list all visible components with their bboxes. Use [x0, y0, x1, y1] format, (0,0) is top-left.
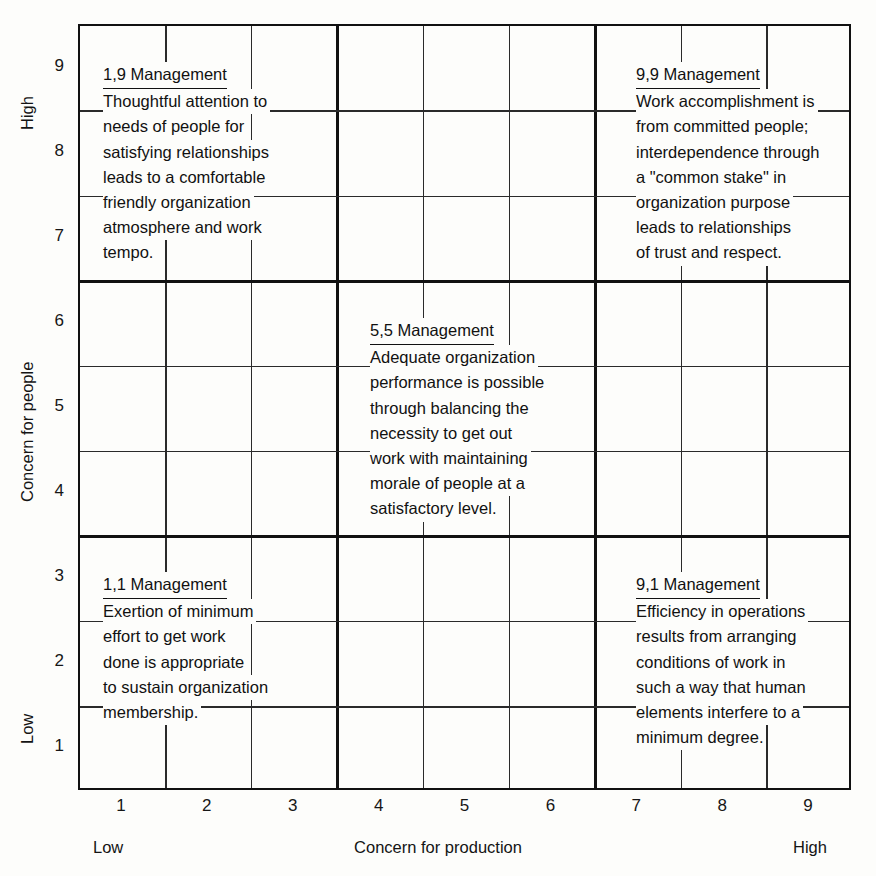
y-tick-9: 9 — [34, 56, 64, 76]
x-tick-7: 7 — [616, 796, 656, 816]
x-tick-6: 6 — [530, 796, 570, 816]
annotation-line-2: from committed people; — [636, 114, 811, 139]
annotation-line-3: done is appropriate — [103, 650, 247, 675]
gridline-horizontal-6 — [80, 280, 849, 282]
x-tick-1: 1 — [101, 796, 141, 816]
annotation-line-1: Exertion of minimum — [103, 599, 256, 624]
annotation-block-9-1: 9,1 ManagementEfficiency in operationsre… — [636, 572, 809, 750]
annotation-line-4: leads to a comfortable — [103, 165, 268, 190]
annotation-line-4: such a way that human — [636, 675, 809, 700]
annotation-line-1: Thoughtful attention to — [103, 89, 270, 114]
annotation-block-1-1: 1,1 ManagementExertion of minimumeffort … — [103, 572, 271, 725]
annotation-line-2: performance is possible — [370, 370, 547, 395]
annotation-line-1: Adequate organization — [370, 345, 538, 370]
x-tick-4: 4 — [359, 796, 399, 816]
y-axis-title: Concern for people — [18, 362, 37, 502]
y-tick-8: 8 — [34, 141, 64, 161]
annotation-heading: 1,1 Management — [103, 572, 227, 599]
annotation-heading-wrap: 9,9 Management — [636, 62, 822, 89]
annotation-line-2: needs of people for — [103, 114, 247, 139]
x-tick-2: 2 — [187, 796, 227, 816]
annotation-line-2: results from arranging — [636, 624, 799, 649]
annotation-line-6: atmosphere and work — [103, 215, 265, 240]
y-tick-3: 3 — [34, 566, 64, 586]
annotation-line-3: conditions of work in — [636, 650, 789, 675]
annotation-heading: 1,9 Management — [103, 62, 227, 89]
annotation-line-1: Work accomplishment is — [636, 89, 818, 114]
annotation-block-1-9: 1,9 ManagementThoughtful attention tonee… — [103, 62, 272, 266]
y-axis-low-label: Low — [18, 714, 37, 744]
annotation-line-7: of trust and respect. — [636, 240, 785, 265]
x-axis-title: Concern for production — [0, 838, 876, 857]
annotation-line-5: work with maintaining — [370, 446, 531, 471]
y-tick-6: 6 — [34, 311, 64, 331]
annotation-block-5-5: 5,5 ManagementAdequate organizationperfo… — [370, 318, 547, 522]
annotation-line-7: tempo. — [103, 240, 156, 265]
annotation-line-1: Efficiency in operations — [636, 599, 808, 624]
annotation-heading: 9,1 Management — [636, 572, 760, 599]
y-tick-2: 2 — [34, 651, 64, 671]
annotation-heading-wrap: 1,1 Management — [103, 572, 271, 599]
annotation-heading-wrap: 5,5 Management — [370, 318, 547, 345]
annotation-heading-wrap: 1,9 Management — [103, 62, 272, 89]
annotation-line-5: elements interfere to a — [636, 700, 803, 725]
annotation-line-6: morale of people at a — [370, 471, 528, 496]
annotation-line-3: satisfying relationships — [103, 140, 272, 165]
y-tick-4: 4 — [34, 481, 64, 501]
annotation-heading: 9,9 Management — [636, 62, 760, 89]
annotation-line-5: friendly organization — [103, 190, 254, 215]
managerial-grid-figure: 123456789 987654321 Low Concern for prod… — [0, 0, 876, 876]
x-tick-5: 5 — [445, 796, 485, 816]
annotation-line-3: interdependence through — [636, 140, 822, 165]
annotation-heading: 5,5 Management — [370, 318, 494, 345]
annotation-block-9-9: 9,9 ManagementWork accomplishment isfrom… — [636, 62, 822, 266]
annotation-line-4: to sustain organization — [103, 675, 271, 700]
x-axis-high-label: High — [793, 838, 827, 857]
x-tick-3: 3 — [273, 796, 313, 816]
annotation-line-4: necessity to get out — [370, 421, 515, 446]
x-tick-8: 8 — [702, 796, 742, 816]
annotation-line-7: satisfactory level. — [370, 496, 500, 521]
annotation-line-5: membership. — [103, 700, 201, 725]
gridline-vertical-3 — [336, 26, 338, 788]
annotation-heading-wrap: 9,1 Management — [636, 572, 809, 599]
annotation-line-2: effort to get work — [103, 624, 229, 649]
annotation-line-5: organization purpose — [636, 190, 793, 215]
gridline-vertical-6 — [594, 26, 596, 788]
annotation-line-4: a "common stake" in — [636, 165, 789, 190]
annotation-line-6: leads to relationships — [636, 215, 794, 240]
y-tick-7: 7 — [34, 226, 64, 246]
x-tick-9: 9 — [788, 796, 828, 816]
y-axis-high-label: High — [18, 96, 37, 130]
y-tick-1: 1 — [34, 736, 64, 756]
y-tick-5: 5 — [34, 396, 64, 416]
gridline-horizontal-3 — [80, 535, 849, 537]
annotation-line-6: minimum degree. — [636, 725, 766, 750]
annotation-line-3: through balancing the — [370, 396, 532, 421]
